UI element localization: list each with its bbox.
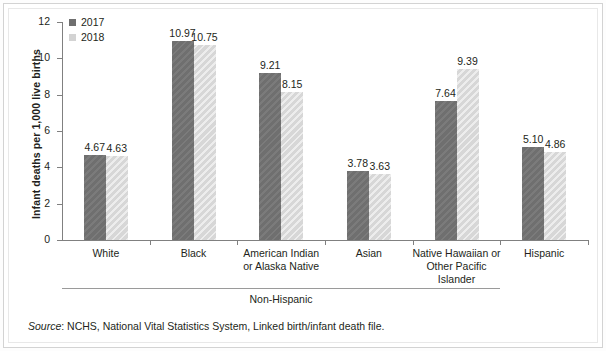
chart-figure: Infant deaths per 1,000 live births 0246… (0, 0, 606, 351)
bar-value-2017-american-indian-or-alaska-native: 9.21 (250, 59, 290, 71)
legend-item-2018[interactable]: 2018 (69, 31, 104, 44)
y-tick-0 (57, 240, 62, 241)
category-label-line: or Alaska Native (231, 260, 331, 273)
bar-2017-american-indian-or-alaska-native[interactable] (259, 73, 281, 240)
y-tick-label-10: 10 (20, 51, 50, 63)
category-label-line: Other Pacific Islander (407, 260, 507, 286)
bar-2017-hispanic[interactable] (522, 147, 544, 240)
x-tick-2 (237, 240, 238, 245)
bar-value-2018-american-indian-or-alaska-native: 8.15 (272, 78, 312, 90)
bar-2018-white[interactable] (106, 156, 128, 240)
y-tick-6 (57, 131, 62, 132)
bar-2017-asian[interactable] (347, 171, 369, 240)
chart-legend: 2017 2018 (69, 16, 104, 46)
category-label-white: White (56, 247, 156, 260)
legend-label-2017: 2017 (81, 16, 104, 29)
bar-value-2018-hispanic: 4.86 (535, 138, 575, 150)
source-text: : NCHS, National Vital Statistics System… (61, 320, 384, 332)
bar-2018-asian[interactable] (369, 174, 391, 240)
y-axis-line (62, 22, 63, 241)
x-tick-4 (413, 240, 414, 245)
bar-2018-american-indian-or-alaska-native[interactable] (281, 92, 303, 240)
source-note: Source: NCHS, National Vital Statistics … (28, 320, 384, 332)
legend-swatch-2018-icon (69, 34, 76, 41)
y-tick-8 (57, 95, 62, 96)
category-label-line: Hispanic (494, 247, 594, 260)
x-tick-end (588, 240, 589, 245)
y-tick-4 (57, 167, 62, 168)
y-tick-label-0: 0 (20, 233, 50, 245)
y-tick-12 (57, 22, 62, 23)
y-tick-2 (57, 204, 62, 205)
legend-label-2018: 2018 (81, 31, 104, 44)
category-label-line: Native Hawaiian or (407, 247, 507, 260)
bar-2018-black[interactable] (194, 45, 216, 240)
category-label-line: Black (144, 247, 244, 260)
bar-2017-native-hawaiian-or-other-pacific-islander[interactable] (435, 101, 457, 240)
bar-value-2018-black: 10.75 (185, 31, 225, 43)
y-tick-label-2: 2 (20, 197, 50, 209)
legend-item-2017[interactable]: 2017 (69, 16, 104, 29)
y-tick-10 (57, 58, 62, 59)
category-label-asian: Asian (319, 247, 419, 260)
category-label-black: Black (144, 247, 244, 260)
group-bracket-label: Non-Hispanic (62, 293, 500, 305)
y-tick-label-8: 8 (20, 88, 50, 100)
bar-value-2018-asian: 3.63 (360, 160, 400, 172)
category-label-american-indian-or-alaska-native: American Indianor Alaska Native (231, 247, 331, 273)
y-tick-label-12: 12 (20, 15, 50, 27)
category-label-hispanic: Hispanic (494, 247, 594, 260)
bar-value-2017-native-hawaiian-or-other-pacific-islander: 7.64 (426, 87, 466, 99)
legend-swatch-2017-icon (69, 19, 76, 26)
category-label-line: White (56, 247, 156, 260)
category-label-native-hawaiian-or-other-pacific-islander: Native Hawaiian orOther Pacific Islander (407, 247, 507, 286)
category-label-line: American Indian (231, 247, 331, 260)
x-tick-5 (500, 240, 501, 245)
bar-2017-white[interactable] (84, 155, 106, 240)
x-tick-1 (150, 240, 151, 245)
bar-value-2018-white: 4.63 (97, 142, 137, 154)
category-label-line: Asian (319, 247, 419, 260)
group-bracket-line (62, 288, 500, 289)
y-tick-label-6: 6 (20, 124, 50, 136)
source-prefix: Source (28, 320, 61, 332)
bar-2018-hispanic[interactable] (544, 152, 566, 240)
y-tick-label-4: 4 (20, 160, 50, 172)
x-tick-3 (325, 240, 326, 245)
bar-value-2018-native-hawaiian-or-other-pacific-islander: 9.39 (448, 55, 488, 67)
bar-2017-black[interactable] (172, 41, 194, 240)
